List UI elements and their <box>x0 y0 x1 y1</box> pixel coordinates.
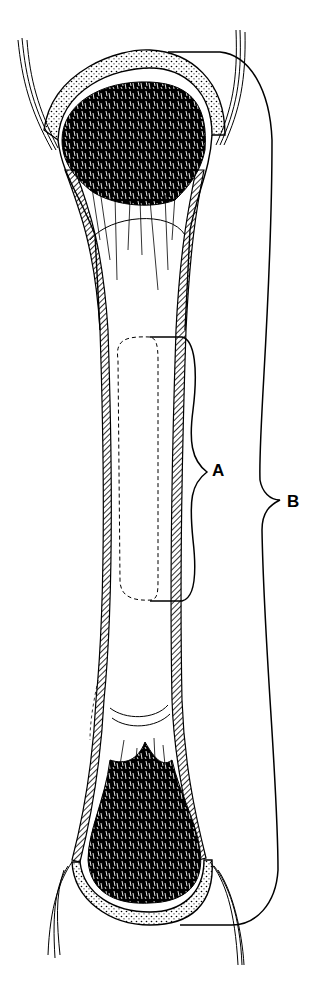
cortex-left <box>65 170 111 862</box>
ligament-bottom-left <box>48 862 72 958</box>
spongy-bone-top <box>62 82 205 205</box>
dashed-region-outline <box>117 337 158 600</box>
label-b: B <box>287 493 299 510</box>
cortex-right <box>171 170 206 860</box>
ligament-bottom-right <box>210 862 244 965</box>
bone-diagram <box>0 0 315 982</box>
epiphyseal-line-bottom <box>110 705 170 726</box>
label-a: A <box>212 462 224 479</box>
